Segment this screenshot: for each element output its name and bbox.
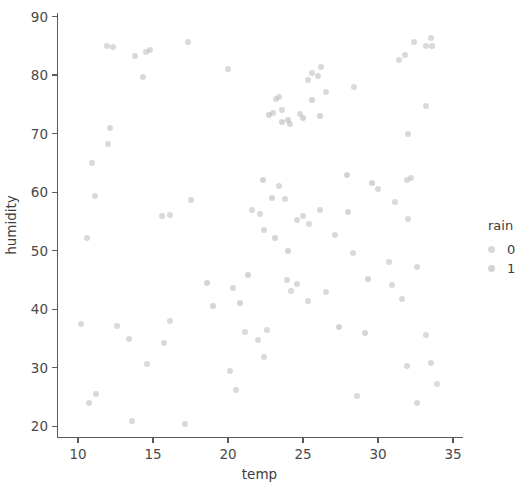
y-axis-label-container: humidity [0, 0, 22, 450]
data-point [282, 196, 288, 202]
data-point [86, 400, 92, 406]
data-point [93, 391, 99, 397]
data-point [237, 300, 243, 306]
data-point [411, 39, 417, 45]
data-point [285, 248, 291, 254]
x-tick-label: 35 [444, 446, 461, 462]
data-point [323, 289, 329, 295]
x-tick-label: 15 [144, 446, 161, 462]
data-point [185, 39, 191, 45]
data-point [264, 327, 270, 333]
y-tick-label: 70 [31, 126, 48, 142]
data-point [386, 259, 392, 265]
data-point [110, 44, 116, 50]
data-point [362, 330, 368, 336]
data-point [161, 340, 167, 346]
data-point [167, 318, 173, 324]
x-tick-mark [77, 438, 78, 443]
data-point [405, 131, 411, 137]
data-point [369, 180, 375, 186]
x-tick-label: 20 [219, 446, 236, 462]
data-point [255, 337, 261, 343]
data-point [261, 354, 267, 360]
x-tick-mark [227, 438, 228, 443]
legend-item: 0 [488, 240, 530, 259]
data-point [354, 393, 360, 399]
data-point [188, 197, 194, 203]
x-tick-label: 10 [69, 446, 86, 462]
data-point [288, 288, 294, 294]
data-point [204, 280, 210, 286]
data-point [315, 73, 321, 79]
data-point [261, 227, 267, 233]
data-point [132, 53, 138, 59]
data-point [305, 77, 311, 83]
data-point [305, 298, 311, 304]
data-point [126, 336, 132, 342]
x-tick-label: 25 [294, 446, 311, 462]
data-point [272, 235, 278, 241]
x-axis-label: temp [0, 466, 519, 482]
data-point [434, 381, 440, 387]
data-point [167, 212, 173, 218]
data-point [105, 141, 111, 147]
data-point [92, 193, 98, 199]
data-point [129, 418, 135, 424]
legend-label: 1 [507, 262, 515, 275]
data-point [351, 84, 357, 90]
x-tick-mark [152, 438, 153, 443]
data-point [249, 207, 255, 213]
y-tick-label: 60 [31, 184, 48, 200]
legend-label: 0 [507, 243, 515, 256]
data-point [317, 113, 323, 119]
legend-item: 1 [488, 259, 530, 278]
data-point [107, 125, 113, 131]
data-point [345, 209, 351, 215]
data-point [399, 296, 405, 302]
x-tick-mark [302, 438, 303, 443]
data-point [317, 207, 323, 213]
data-point [89, 160, 95, 166]
y-tick-label: 90 [31, 9, 48, 25]
data-point [230, 285, 236, 291]
data-point [423, 332, 429, 338]
data-point [266, 112, 272, 118]
data-point [404, 363, 410, 369]
data-point [84, 235, 90, 241]
data-point [405, 216, 411, 222]
data-point [242, 329, 248, 335]
x-tick-label: 30 [369, 446, 386, 462]
data-point [429, 43, 435, 49]
data-point [389, 282, 395, 288]
data-point [375, 186, 381, 192]
data-point [114, 323, 120, 329]
legend: rain 01 [488, 218, 530, 278]
data-point [147, 47, 153, 53]
x-axis-spine [57, 437, 463, 438]
data-point [78, 321, 84, 327]
data-point [414, 400, 420, 406]
data-point [260, 177, 266, 183]
data-point [159, 213, 165, 219]
data-point [227, 368, 233, 374]
data-point [276, 183, 282, 189]
legend-marker-icon [488, 246, 495, 253]
data-point [323, 89, 329, 95]
data-point [350, 250, 356, 256]
data-point [402, 52, 408, 58]
data-point [300, 213, 306, 219]
data-point [276, 94, 282, 100]
data-point [414, 264, 420, 270]
x-tick-mark [452, 438, 453, 443]
y-tick-label: 80 [31, 67, 48, 83]
legend-marker-icon [488, 265, 495, 272]
data-point [428, 360, 434, 366]
data-point [269, 195, 275, 201]
x-tick-mark [377, 438, 378, 443]
data-point [245, 272, 251, 278]
y-tick-label: 30 [31, 360, 48, 376]
data-point [309, 97, 315, 103]
data-point [140, 74, 146, 80]
y-axis-label: humidity [3, 195, 19, 255]
data-point [344, 172, 350, 178]
